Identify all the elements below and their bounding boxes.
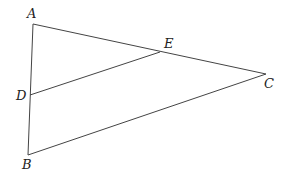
triangle-diagram: A D B E C: [0, 0, 285, 181]
point-label-e: E: [164, 36, 174, 51]
point-label-c: C: [264, 76, 274, 91]
diagram-lines: [0, 0, 285, 181]
segment-ab: [28, 24, 33, 155]
segment-ac: [33, 24, 266, 74]
point-label-a: A: [27, 6, 36, 21]
point-label-b: B: [22, 157, 32, 172]
segment-de: [30, 52, 160, 95]
segment-bc: [28, 74, 266, 155]
point-label-d: D: [16, 88, 26, 103]
